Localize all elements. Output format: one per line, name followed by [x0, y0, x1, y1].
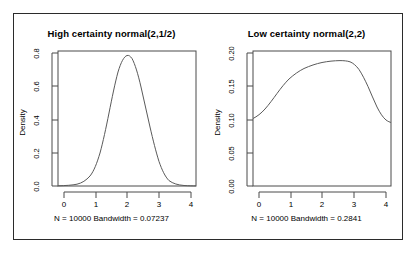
y-tick-left-0: 0.0 — [32, 175, 41, 199]
panel-high-certainty: High certainty normal(2,1/2) — [14, 14, 209, 241]
x-axis-ticks-right — [259, 192, 386, 198]
y-tick-right-4: 0.20 — [227, 38, 236, 70]
x-tick-left-3: 3 — [149, 200, 169, 209]
x-tick-right-0: 0 — [249, 200, 269, 209]
x-tick-right-4: 4 — [376, 200, 396, 209]
y-tick-right-3: 0.15 — [227, 71, 236, 103]
y-tick-left-1: 0.2 — [32, 142, 41, 166]
y-tick-right-1: 0.05 — [227, 138, 236, 170]
x-tick-left-1: 1 — [86, 200, 106, 209]
x-tick-right-1: 1 — [281, 200, 301, 209]
density-curve-right — [253, 61, 391, 123]
y-axis-ticks-right — [247, 53, 253, 186]
figure-frame: High certainty normal(2,1/2) — [13, 13, 403, 240]
x-tick-right-3: 3 — [344, 200, 364, 209]
plot-svg-right — [209, 14, 404, 241]
y-axis-ticks-left — [52, 53, 58, 186]
y-tick-left-2: 0.4 — [32, 109, 41, 133]
caption-left: N = 10000 Bandwidth = 0.07237 — [14, 214, 209, 223]
y-tick-right-2: 0.10 — [227, 105, 236, 137]
x-tick-right-2: 2 — [312, 200, 332, 209]
x-axis-ticks-left — [64, 192, 191, 198]
figure-root: High certainty normal(2,1/2) — [0, 0, 416, 258]
y-axis-label-left: Density — [18, 99, 27, 147]
panel-low-certainty: Low certainty normal(2,2) — [209, 14, 404, 241]
x-tick-left-0: 0 — [54, 200, 74, 209]
y-tick-right-0: 0.00 — [227, 171, 236, 203]
caption-right: N = 10000 Bandwidth = 0.2841 — [209, 214, 404, 223]
y-tick-left-4: 0.8 — [32, 42, 41, 66]
plot-svg-left — [14, 14, 209, 241]
x-tick-left-2: 2 — [117, 200, 137, 209]
plot-box-right — [253, 51, 391, 186]
plot-area-left: Density 0.0 0.2 0.4 0.6 0.8 0 1 2 3 4 N … — [14, 14, 209, 241]
panel-container: High certainty normal(2,1/2) — [14, 14, 404, 241]
plot-area-right: Density 0.00 0.05 0.10 0.15 0.20 0 1 2 3… — [209, 14, 404, 241]
x-tick-left-4: 4 — [181, 200, 201, 209]
y-axis-label-right: Density — [213, 99, 222, 147]
y-tick-left-3: 0.6 — [32, 75, 41, 99]
plot-box-left — [58, 51, 196, 186]
density-curve-left — [58, 55, 196, 186]
